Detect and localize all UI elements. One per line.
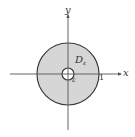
x-axis-arrow-icon — [118, 72, 122, 75]
outer-radius-label: 1 — [99, 74, 104, 82]
region-label-main: D — [75, 54, 83, 65]
x-axis-label: x — [123, 68, 129, 78]
region-label: Dε — [75, 55, 86, 66]
annulus-figure: y x Dε ε 1 — [0, 0, 135, 137]
region-label-sub: ε — [83, 59, 86, 66]
y-axis-label: y — [65, 5, 71, 15]
figure-graphics — [0, 0, 135, 137]
inner-radius-label: ε — [72, 77, 76, 84]
